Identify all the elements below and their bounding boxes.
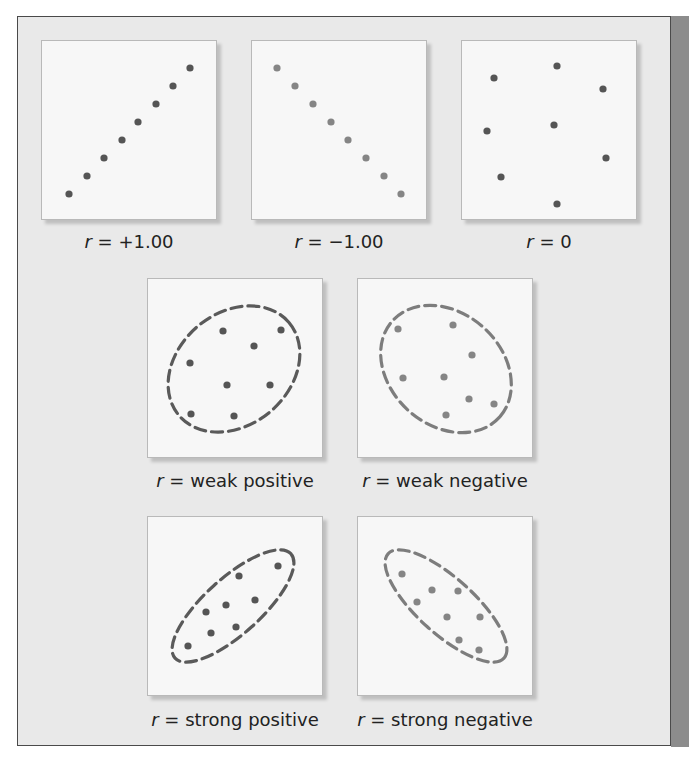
- data-point: [465, 395, 472, 402]
- data-point: [100, 154, 107, 161]
- label-r-strong-negative: r = strong negative: [330, 709, 560, 731]
- scatter-plot: [252, 41, 428, 221]
- data-point: [134, 118, 141, 125]
- dashed-ellipse: [143, 280, 325, 458]
- data-point: [235, 572, 242, 579]
- label-text: = −1.00: [302, 231, 384, 252]
- side-strip: [671, 16, 689, 747]
- r-symbol: r: [357, 709, 364, 730]
- plot-r-weak-positive: [147, 278, 323, 458]
- data-point: [83, 172, 90, 179]
- scatter-plot: [42, 41, 218, 221]
- data-point: [186, 359, 193, 366]
- dashed-ellipse: [369, 533, 522, 679]
- data-point: [398, 570, 405, 577]
- data-point: [394, 325, 401, 332]
- scatter-plot: [462, 41, 638, 221]
- data-point: [65, 190, 72, 197]
- label-text: = +1.00: [92, 231, 174, 252]
- label-r-plus-one: r = +1.00: [14, 231, 244, 253]
- plot-r-zero: [461, 40, 637, 220]
- data-point: [455, 636, 462, 643]
- data-point: [277, 326, 284, 333]
- label-r-strong-positive: r = strong positive: [120, 709, 350, 731]
- data-point: [443, 613, 450, 620]
- data-point: [184, 642, 191, 649]
- data-point: [476, 613, 483, 620]
- data-point: [169, 82, 176, 89]
- plot-r-minus-one: [251, 40, 427, 220]
- data-point: [490, 74, 497, 81]
- data-point: [207, 629, 214, 636]
- data-point: [230, 412, 237, 419]
- label-r-weak-negative: r = weak negative: [330, 470, 560, 492]
- data-point: [250, 342, 257, 349]
- data-point: [362, 154, 369, 161]
- r-symbol: r: [84, 231, 91, 252]
- data-point: [428, 586, 435, 593]
- data-point: [550, 121, 557, 128]
- r-symbol: r: [526, 231, 533, 252]
- data-point: [273, 64, 280, 71]
- label-text: = strong positive: [159, 709, 319, 730]
- data-point: [291, 82, 298, 89]
- data-point: [553, 62, 560, 69]
- data-point: [468, 351, 475, 358]
- label-text: = weak positive: [164, 470, 314, 491]
- data-point: [490, 400, 497, 407]
- data-point: [497, 173, 504, 180]
- dashed-ellipse: [156, 533, 309, 679]
- label-r-weak-positive: r = weak positive: [120, 470, 350, 492]
- data-point: [399, 374, 406, 381]
- data-point: [223, 381, 230, 388]
- plot-r-strong-positive: [147, 516, 323, 696]
- data-point: [274, 562, 281, 569]
- label-r-minus-one: r = −1.00: [224, 231, 454, 253]
- data-point: [442, 411, 449, 418]
- label-text: = strong negative: [365, 709, 533, 730]
- data-point: [413, 598, 420, 605]
- data-point: [202, 608, 209, 615]
- data-point: [309, 100, 316, 107]
- data-point: [118, 136, 125, 143]
- data-point: [219, 327, 226, 334]
- data-point: [344, 136, 351, 143]
- scatter-plot: [358, 279, 534, 459]
- plot-r-strong-negative: [357, 516, 533, 696]
- data-point: [483, 127, 490, 134]
- data-point: [266, 381, 273, 388]
- dashed-ellipse: [355, 279, 537, 459]
- data-point: [187, 410, 194, 417]
- label-r-zero: r = 0: [434, 231, 664, 253]
- plot-r-weak-negative: [357, 278, 533, 458]
- data-point: [397, 190, 404, 197]
- data-point: [440, 373, 447, 380]
- data-point: [599, 85, 606, 92]
- data-point: [449, 321, 456, 328]
- r-symbol: r: [294, 231, 301, 252]
- label-text: = weak negative: [370, 470, 528, 491]
- data-point: [327, 118, 334, 125]
- data-point: [186, 64, 193, 71]
- scatter-plot: [148, 517, 324, 697]
- data-point: [553, 200, 560, 207]
- label-text: = 0: [534, 231, 572, 252]
- data-point: [475, 646, 482, 653]
- data-point: [222, 601, 229, 608]
- data-point: [380, 172, 387, 179]
- data-point: [251, 596, 258, 603]
- data-point: [232, 623, 239, 630]
- data-point: [454, 587, 461, 594]
- r-symbol: r: [156, 470, 163, 491]
- r-symbol: r: [362, 470, 369, 491]
- scatter-plot: [148, 279, 324, 459]
- data-point: [602, 154, 609, 161]
- plot-r-plus-one: [41, 40, 217, 220]
- r-symbol: r: [151, 709, 158, 730]
- data-point: [152, 100, 159, 107]
- scatter-plot: [358, 517, 534, 697]
